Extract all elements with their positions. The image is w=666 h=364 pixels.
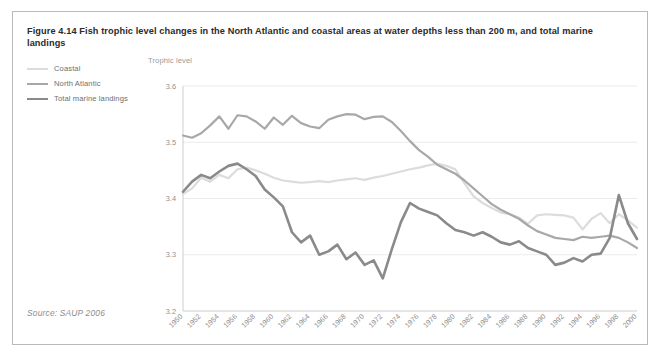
x-axis-tick-label: 1970 bbox=[348, 312, 366, 330]
y-axis-tick-label: 3.2 bbox=[166, 307, 176, 316]
x-axis-tick-label: 1968 bbox=[330, 312, 348, 330]
x-axis-tick-label: 1956 bbox=[221, 312, 239, 330]
y-axis-tick-label: 3.3 bbox=[166, 250, 176, 259]
figure-container: Figure 4.14 Fish trophic level changes i… bbox=[12, 11, 648, 345]
x-axis-tick-label: 1966 bbox=[312, 312, 330, 330]
x-axis-tick-label: 1978 bbox=[421, 312, 439, 330]
chart-plot-area: 3.23.33.43.53.61950195219541956195819601… bbox=[13, 12, 649, 346]
x-axis-tick-label: 1988 bbox=[512, 312, 530, 330]
y-axis-tick-label: 3.6 bbox=[166, 82, 176, 91]
x-axis-tick-label: 1974 bbox=[385, 312, 403, 330]
x-axis-tick-label: 1964 bbox=[294, 312, 312, 330]
source-caption: Source: SAUP 2006 bbox=[27, 308, 105, 318]
x-axis-tick-label: 1982 bbox=[457, 312, 475, 330]
x-axis-tick-label: 1994 bbox=[566, 312, 584, 330]
x-axis-tick-label: 1996 bbox=[584, 312, 602, 330]
x-axis-tick-label: 2000 bbox=[621, 312, 639, 330]
x-axis-tick-label: 1980 bbox=[439, 312, 457, 330]
x-axis-tick-label: 1998 bbox=[603, 312, 621, 330]
x-axis-tick-label: 1984 bbox=[475, 312, 493, 330]
x-axis-tick-label: 1972 bbox=[366, 312, 384, 330]
x-axis-tick-label: 1952 bbox=[185, 312, 203, 330]
x-axis-tick-label: 1960 bbox=[258, 312, 276, 330]
x-axis-tick-label: 1976 bbox=[403, 312, 421, 330]
y-axis-tick-label: 3.5 bbox=[166, 138, 176, 147]
x-axis-tick-label: 1962 bbox=[276, 312, 294, 330]
y-axis-tick-label: 3.4 bbox=[166, 194, 176, 203]
line-chart: 3.23.33.43.53.61950195219541956195819601… bbox=[13, 12, 649, 346]
x-axis-tick-label: 1986 bbox=[494, 312, 512, 330]
x-axis-tick-label: 1990 bbox=[530, 312, 548, 330]
series-line-north-atlantic bbox=[183, 114, 637, 248]
x-axis-tick-label: 1958 bbox=[239, 312, 257, 330]
series-line-total-marine-landings bbox=[183, 164, 637, 279]
x-axis-tick-label: 1954 bbox=[203, 312, 221, 330]
x-axis-tick-label: 1992 bbox=[548, 312, 566, 330]
